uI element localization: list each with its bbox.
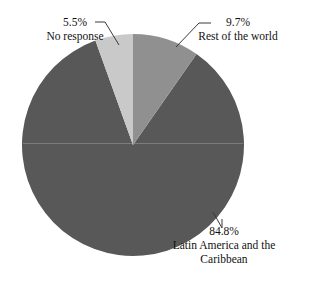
slice-name-rest-of-world: Rest of the world (176, 29, 300, 43)
slice-name-latin-america: Latin America and the Caribbean (148, 238, 300, 266)
pie-chart-figure: 5.5% No response 9.7% Rest of the world … (0, 0, 313, 283)
slice-label-latin-america: 84.8% Latin America and the Caribbean (148, 224, 300, 266)
slice-percent-rest-of-world: 9.7% (176, 15, 300, 29)
slice-name-no-response: No response (28, 29, 122, 43)
slice-label-no-response: 5.5% No response (28, 15, 122, 43)
slice-percent-latin-america: 84.8% (148, 224, 300, 238)
slice-percent-no-response: 5.5% (28, 15, 122, 29)
slice-label-rest-of-world: 9.7% Rest of the world (176, 15, 300, 43)
